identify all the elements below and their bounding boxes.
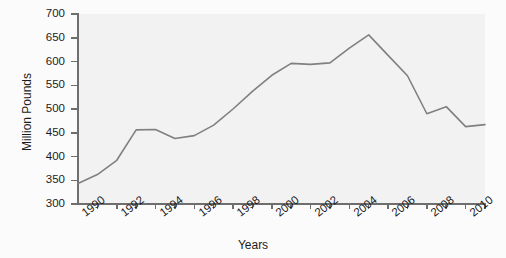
y-axis-tick-label: 300 — [46, 198, 65, 210]
y-axis-tick — [71, 108, 77, 110]
plot-area — [78, 14, 485, 204]
x-axis-tick — [465, 204, 467, 209]
y-axis-tick — [71, 37, 77, 39]
y-axis-tick-label: 550 — [46, 79, 65, 91]
y-axis-tick — [71, 132, 77, 134]
y-axis-line — [77, 13, 79, 205]
y-axis-tick — [71, 156, 77, 158]
x-axis-tick — [194, 204, 196, 209]
x-axis-tick — [155, 204, 157, 209]
y-axis-tick-label: 500 — [46, 103, 65, 115]
y-axis-tick-label: 650 — [46, 32, 65, 44]
y-axis-tick — [71, 85, 77, 87]
x-axis-title: Years — [0, 238, 506, 252]
x-axis-tick — [310, 204, 312, 209]
x-axis-tick — [116, 204, 118, 209]
y-axis-tick — [71, 203, 77, 205]
y-axis-title: Million Pounds — [20, 52, 34, 172]
y-axis-tick-label: 450 — [46, 127, 65, 139]
y-axis-tick-label: 350 — [46, 174, 65, 186]
y-axis-tick — [71, 61, 77, 63]
x-axis-tick — [271, 204, 273, 209]
y-axis-tick-label: 700 — [46, 8, 65, 20]
x-axis-tick — [349, 204, 351, 209]
y-axis-tick-label: 400 — [46, 151, 65, 163]
y-axis-tick — [71, 13, 77, 15]
y-axis-tick — [71, 180, 77, 182]
y-axis-tick-label: 600 — [46, 56, 65, 68]
line-chart: 300350400450500550600650700 199019921994… — [0, 0, 506, 258]
